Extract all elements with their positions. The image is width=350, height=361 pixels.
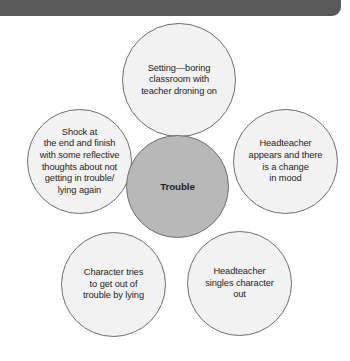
- bubble-node-setting-label: Setting—boring classroom with teacher dr…: [123, 63, 235, 98]
- bubble-node-headteacher-appears-label: Headteacher appears and there is a chang…: [234, 138, 337, 184]
- bubble-node-setting[interactable]: Setting—boring classroom with teacher dr…: [122, 23, 236, 137]
- bubble-node-character-lies[interactable]: Character tries to get out of trouble by…: [61, 232, 166, 337]
- header-bar: [0, 0, 341, 16]
- bubble-node-center-trouble-label: Trouble: [160, 181, 195, 193]
- bubble-node-shock-reflection[interactable]: Shock at the end and finish with some re…: [27, 109, 132, 214]
- bubble-node-character-lies-label: Character tries to get out of trouble by…: [62, 267, 165, 302]
- bubble-node-center-trouble[interactable]: Trouble: [126, 135, 229, 238]
- bubble-node-shock-reflection-label: Shock at the end and finish with some re…: [28, 127, 131, 197]
- diagram-canvas: Setting—boring classroom with teacher dr…: [0, 0, 350, 361]
- bubble-node-headteacher-singles-out[interactable]: Headteacher singles character out: [187, 231, 292, 336]
- bubble-node-headteacher-singles-out-label: Headteacher singles character out: [188, 266, 291, 301]
- bubble-node-headteacher-appears[interactable]: Headteacher appears and there is a chang…: [233, 109, 338, 214]
